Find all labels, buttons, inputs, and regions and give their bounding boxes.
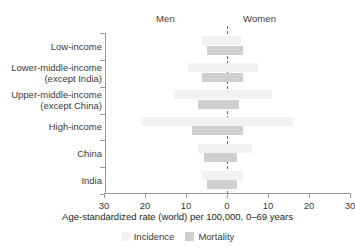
bar-incidence <box>174 90 272 99</box>
x-axis-tick-label: 30 <box>345 200 355 211</box>
legend-swatch <box>121 232 130 241</box>
x-axis-tick-label: 30 <box>99 200 110 211</box>
bar-mortality <box>207 46 244 55</box>
x-axis-tick-label: 20 <box>304 200 315 211</box>
legend-swatch <box>185 232 194 241</box>
category-label: Upper-middle-income (except China) <box>11 89 102 111</box>
bar-mortality <box>204 153 237 162</box>
x-axis-tick <box>145 193 146 198</box>
y-axis-spine <box>105 33 106 194</box>
x-axis-tick <box>186 193 187 198</box>
bar-incidence <box>202 171 243 180</box>
bar-mortality <box>202 73 243 82</box>
y-axis-tick <box>100 140 105 141</box>
y-axis-tick <box>100 167 105 168</box>
bar-mortality <box>192 126 243 135</box>
legend-item: Mortality <box>185 231 234 242</box>
x-axis-title: Age-standardized rate (world) per 100,00… <box>0 211 355 222</box>
x-axis-tick-label: 10 <box>263 200 274 211</box>
x-axis-tick-label: 0 <box>224 200 229 211</box>
legend-label: Mortality <box>198 231 234 242</box>
bar-mortality <box>207 180 238 189</box>
x-axis-tick <box>309 193 310 198</box>
category-label: High-income <box>49 121 102 132</box>
bar-incidence <box>198 144 251 153</box>
x-axis-tick <box>104 193 105 198</box>
y-axis-tick <box>100 33 105 34</box>
x-axis-tick-label: 20 <box>140 200 151 211</box>
bar-incidence <box>141 117 293 126</box>
chart-legend: IncidenceMortality <box>0 231 355 242</box>
category-label: Low-income <box>51 41 102 52</box>
x-axis-tick-label: 10 <box>181 200 192 211</box>
legend-label: Incidence <box>134 231 175 242</box>
y-axis-tick <box>100 114 105 115</box>
legend-item: Incidence <box>121 231 175 242</box>
cancer-rate-diverging-bar-chart: Men Women Low-incomeLower-middle-income … <box>0 0 355 250</box>
y-axis-tick <box>100 60 105 61</box>
bar-mortality <box>198 100 239 109</box>
x-axis-tick <box>227 193 228 198</box>
bar-incidence <box>202 36 241 45</box>
x-axis-tick <box>268 193 269 198</box>
bar-incidence <box>188 63 258 72</box>
category-label: Lower-middle-income (except India) <box>11 62 102 84</box>
x-axis-tick <box>350 193 351 198</box>
y-axis-tick <box>100 87 105 88</box>
category-label: China <box>77 148 102 159</box>
category-label: India <box>81 175 102 186</box>
